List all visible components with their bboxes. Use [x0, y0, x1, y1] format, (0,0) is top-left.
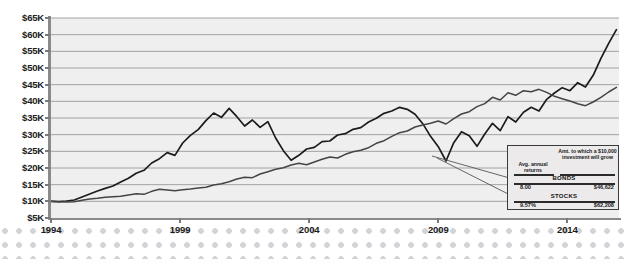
chart-root: $5K$10K$15K$20K$25K$30K$35K$40K$45K$50K$…	[0, 0, 625, 259]
annotation-table: Avg. annual returns Amt. to which a $10,…	[507, 145, 619, 210]
section-label-bonds: BONDS	[508, 175, 620, 181]
col-header-avg-annual-returns: Avg. annual returns	[511, 161, 555, 173]
col-header-growth: Amt. to which a $10,000 investment will …	[558, 148, 617, 160]
bonds-growth: $46,622	[594, 184, 614, 190]
stocks-growth: $62,208	[594, 202, 614, 208]
section-label-stocks: STOCKS	[508, 193, 620, 199]
stocks-avg-annual-return: 9.57%	[520, 202, 536, 208]
leader-lines	[0, 0, 625, 259]
bonds-avg-annual-return: 8.00	[520, 184, 531, 190]
